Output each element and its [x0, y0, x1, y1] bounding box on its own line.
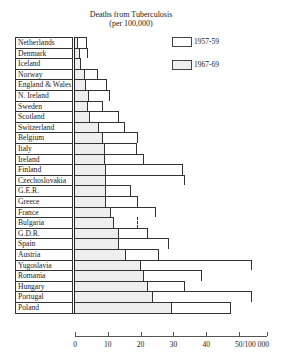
bar-row: G.E.R.: [15, 185, 275, 196]
chart-bottom-border: [15, 313, 231, 314]
category-label: Spain: [15, 238, 73, 249]
bar-row: Scotland: [15, 111, 275, 122]
x-tick: [239, 332, 240, 336]
x-tick-label: 20: [137, 340, 145, 349]
x-tick-label: 50/100 000: [235, 340, 269, 349]
legend-label-1967: 1967-69: [194, 60, 219, 70]
category-label: Denmark: [15, 48, 73, 59]
bar-row: Poland: [15, 302, 275, 313]
category-label: France: [15, 207, 73, 218]
bar-1967-69: [75, 238, 119, 249]
bar-row: Ireland: [15, 154, 275, 165]
bar-1967-69: [75, 90, 89, 101]
bar-row: G.D.R.: [15, 228, 275, 239]
bar-1967-69: [75, 196, 106, 207]
bar-1967-69: [75, 228, 119, 239]
category-label: Hungary: [15, 281, 73, 292]
category-label: Switzerland: [15, 122, 73, 133]
bar-row: Bulgaria: [15, 217, 275, 228]
category-label: G.E.R.: [15, 185, 73, 196]
chart-title: Deaths from Tuberculosis: [0, 10, 262, 19]
bar-1967-69: [75, 185, 106, 196]
x-tick: [206, 332, 207, 336]
bar-row: Belgium: [15, 132, 275, 143]
bar-row: Czechoslovakia: [15, 175, 275, 186]
bar-row: Yugoslavia: [15, 260, 275, 271]
bar-row: Austria: [15, 249, 275, 260]
category-label: Bulgaria: [15, 217, 73, 228]
tuberculosis-chart: Deaths from Tuberculosis (per 100,000) N…: [0, 0, 282, 356]
category-label: Czechoslovakia: [15, 175, 73, 186]
x-tick: [108, 332, 109, 336]
bar-row: Norway: [15, 69, 275, 80]
bar-1967-69: [75, 143, 105, 154]
bar-1967-69: [75, 302, 172, 313]
category-label: Yugoslavia: [15, 260, 73, 271]
x-tick: [75, 332, 76, 336]
bar-1967-69: [75, 79, 86, 90]
category-label: Sweden: [15, 101, 73, 112]
bar-row: N. Ireland: [15, 90, 275, 101]
bar-1967-69: [75, 175, 106, 186]
legend-swatch-1967: [172, 60, 192, 70]
x-tick-label: 10: [104, 340, 112, 349]
bar-row: Spain: [15, 238, 275, 249]
legend-swatch-1957: [172, 37, 192, 47]
bar-1967-69: [75, 164, 106, 175]
category-label: Austria: [15, 249, 73, 260]
category-label: Greece: [15, 196, 73, 207]
x-axis-end-tick: [267, 332, 268, 336]
bar-row: Netherlands: [15, 37, 275, 48]
category-label: Scotland: [15, 111, 73, 122]
bar-1967-69: [75, 207, 111, 218]
bar-row: Denmark: [15, 48, 275, 59]
bar-row: Switzerland: [15, 122, 275, 133]
bar-row: Sweden: [15, 101, 275, 112]
bar-1967-69: [75, 111, 90, 122]
category-label: Norway: [15, 69, 73, 80]
bar-row: Greece: [15, 196, 275, 207]
zero-baseline: [74, 37, 75, 313]
bar-1967-69: [75, 217, 114, 228]
category-label: G.D.R.: [15, 228, 73, 239]
bar-row: Hungary: [15, 281, 275, 292]
bar-1967-69: [75, 132, 103, 143]
legend-label-1957: 1957-59: [194, 37, 219, 47]
bar-row: Romania: [15, 270, 275, 281]
category-label: Netherlands: [15, 37, 73, 48]
chart-subtitle: (per 100,000): [0, 19, 262, 28]
category-label: Iceland: [15, 58, 73, 69]
category-label: Italy: [15, 143, 73, 154]
x-tick-label: 40: [202, 340, 210, 349]
category-label: Poland: [15, 302, 73, 313]
bar-1967-69: [75, 260, 141, 271]
x-tick-label: 0: [73, 340, 77, 349]
x-tick: [141, 332, 142, 336]
bar-row: England & Wales: [15, 79, 275, 90]
bar-row: France: [15, 207, 275, 218]
bar-1967-69: [75, 270, 144, 281]
bar-1967-69: [75, 122, 99, 133]
category-label: Ireland: [15, 154, 73, 165]
bar-1967-69: [75, 281, 148, 292]
bar-1967-69: [75, 69, 85, 80]
bar-1967-69: [75, 37, 78, 48]
category-label: Portugal: [15, 291, 73, 302]
bar-1967-69: [75, 249, 126, 260]
bar-row: Iceland: [15, 58, 275, 69]
category-label: Belgium: [15, 132, 73, 143]
x-tick: [173, 332, 174, 336]
bar-1967-69: [75, 154, 105, 165]
category-label: Romania: [15, 270, 73, 281]
category-label: England & Wales: [15, 79, 73, 90]
category-label: N. Ireland: [15, 90, 73, 101]
bar-1967-69: [75, 48, 80, 59]
bar-row: Portugal: [15, 291, 275, 302]
category-label: Finland: [15, 164, 73, 175]
x-tick-label: 30: [170, 340, 178, 349]
bar-row: Italy: [15, 143, 275, 154]
bar-1967-69: [75, 101, 88, 112]
bar-1967-69: [75, 291, 153, 302]
bar-row: Finland: [15, 164, 275, 175]
x-axis: [75, 336, 267, 337]
